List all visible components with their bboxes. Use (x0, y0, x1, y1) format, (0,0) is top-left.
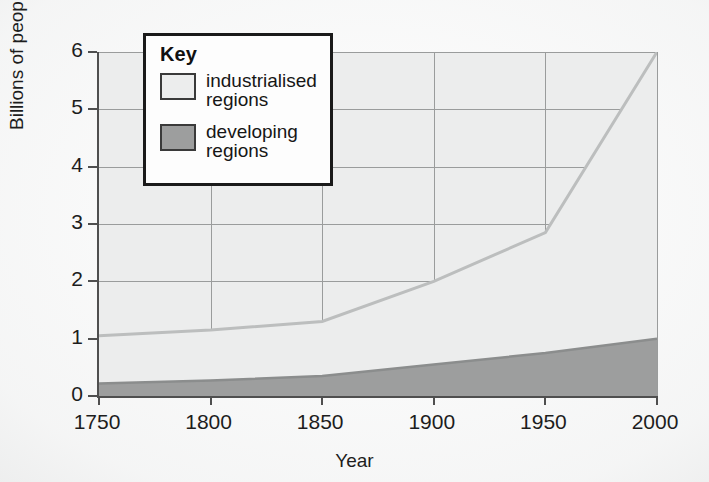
x-axis-tick (98, 396, 100, 405)
y-axis-tick (88, 51, 97, 53)
legend-title: Key (160, 43, 330, 66)
x-axis-tick-label: 1750 (74, 410, 121, 434)
legend-item-label-line1: industrialised (206, 71, 317, 90)
legend-swatch-industrialised (160, 73, 196, 100)
x-axis-title: Year (0, 450, 709, 472)
x-axis-tick (210, 396, 212, 405)
y-axis-tick-label: 5 (57, 95, 83, 119)
x-axis-tick (544, 396, 546, 405)
legend-item: industrialisedregions (160, 70, 330, 109)
x-axis-tick-label: 1850 (297, 410, 344, 434)
y-axis-tick (88, 338, 97, 340)
legend-item-label-line1: developing (206, 122, 298, 141)
y-axis-tick (88, 223, 97, 225)
y-axis-tick-label: 1 (57, 325, 83, 349)
x-axis-tick (321, 396, 323, 405)
chart-legend: Key industrialisedregionsdevelopingregio… (143, 33, 333, 186)
y-axis-tick-label: 0 (57, 382, 83, 406)
y-axis-tick (88, 108, 97, 110)
legend-item-label: developingregions (206, 121, 298, 160)
legend-items: industrialisedregionsdevelopingregions (160, 70, 330, 160)
y-axis-tick (88, 166, 97, 168)
y-axis-title: Billions of people (6, 0, 28, 130)
y-axis-tick-label: 4 (57, 153, 83, 177)
x-axis-tick-label: 2000 (632, 410, 679, 434)
y-axis-tick-label: 2 (57, 267, 83, 291)
x-axis-tick-label: 1900 (408, 410, 455, 434)
legend-item-label: industrialisedregions (206, 70, 317, 109)
legend-item: developingregions (160, 121, 330, 160)
gridline-vertical (657, 52, 658, 396)
x-axis-tick (656, 396, 658, 405)
population-chart-figure: Billions of people 0123456 1750180018501… (0, 0, 709, 482)
y-axis-tick (88, 395, 97, 397)
y-axis-tick-label: 6 (57, 38, 83, 62)
legend-item-label-line2: regions (206, 141, 298, 160)
x-axis-tick-label: 1950 (520, 410, 567, 434)
x-axis-tick-label: 1800 (185, 410, 232, 434)
y-axis-tick-label: 3 (57, 210, 83, 234)
y-axis-tick (88, 280, 97, 282)
legend-item-label-line2: regions (206, 90, 317, 109)
legend-swatch-developing (160, 124, 196, 151)
x-axis-tick (433, 396, 435, 405)
